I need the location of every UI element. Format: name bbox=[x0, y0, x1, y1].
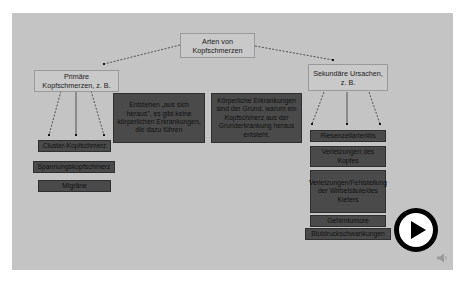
secondary-description: Körperliche Erkrankungen sind der Grund,… bbox=[211, 93, 302, 143]
primary-example-cluster: Cluster-Kopfschmerz bbox=[38, 140, 111, 152]
primary-node: Primäre Kopfschmerzen, z. B. bbox=[34, 70, 119, 92]
primary-example-tension: Spannungskopfschmerz bbox=[33, 161, 115, 173]
play-icon bbox=[411, 221, 426, 239]
secondary-example-blood-pressure: Blutdruckschwankungen bbox=[305, 228, 391, 240]
secondary-example-giant-cell: Riesenzellarteriitis bbox=[310, 130, 386, 142]
primary-node-label: Primäre Kopfschmerzen, z. B. bbox=[38, 72, 115, 90]
primary-example-migraine: Migräne bbox=[38, 180, 111, 192]
play-button[interactable] bbox=[394, 208, 438, 252]
secondary-example-head-injury: Verletzungen des Kopfes bbox=[310, 146, 386, 167]
secondary-node-label: Sekundäre Ursachen, z. B. bbox=[312, 69, 384, 87]
root-node: Arten von Kopfschmerzen bbox=[180, 33, 255, 58]
secondary-example-spine-jaw: Verletzungen/Fehlstellung der Wirbelsäul… bbox=[310, 170, 386, 213]
primary-description: Entstehen „aus sich heraus", es gibt kei… bbox=[113, 93, 205, 143]
root-node-label: Arten von Kopfschmerzen bbox=[184, 37, 251, 55]
speaker-icon[interactable] bbox=[437, 253, 449, 263]
secondary-example-brain-tumor: Gehirntumore bbox=[310, 215, 386, 227]
secondary-node: Sekundäre Ursachen, z. B. bbox=[308, 64, 388, 91]
